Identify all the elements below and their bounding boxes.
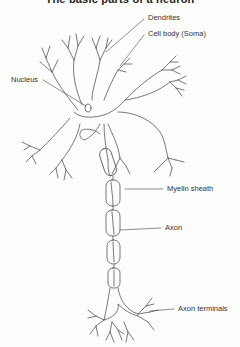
- neuron-illustration: [0, 0, 240, 347]
- dendrites-shape: [22, 34, 186, 180]
- nucleus-shape: [85, 104, 91, 112]
- label-axon: Axon: [165, 224, 182, 232]
- label-myelin-sheath: Myelin sheath: [167, 185, 213, 193]
- myelin-sheath-shape: [98, 147, 120, 288]
- label-dendrites: Dendrites: [148, 14, 180, 22]
- axon-shape: [111, 176, 114, 286]
- label-nucleus: Nucleus: [11, 76, 38, 84]
- cell-body-shape: [40, 60, 170, 160]
- neuron-diagram: The basic parts of a neuron: [0, 0, 240, 347]
- label-axon-terminals: Axon terminals: [178, 305, 228, 313]
- axon-terminals-shape: [88, 288, 158, 342]
- label-cell-body: Cell body (Soma): [148, 30, 206, 38]
